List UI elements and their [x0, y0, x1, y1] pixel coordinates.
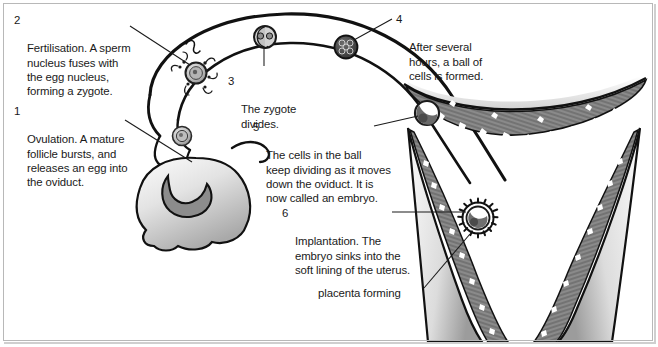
released-egg: [173, 127, 192, 146]
callout-4-number: 4: [396, 12, 407, 26]
callout-6-text: Implantation. The embryo sinks into the …: [295, 234, 450, 277]
callout-2-text: Fertilisation. A sperm nucleus fuses wit…: [27, 41, 166, 98]
label-placenta-forming: placenta forming: [318, 286, 401, 300]
callout-3-number: 3: [228, 74, 239, 88]
implanted-embryo: [458, 199, 497, 238]
callout-5: 5 The cells in the ball keep dividing as…: [253, 120, 423, 219]
callout-5-text: The cells in the ball keep dividing as i…: [266, 148, 423, 205]
callout-4-text: After several hours, a ball of cells is …: [409, 40, 508, 83]
callout-1-number: 1: [14, 104, 25, 118]
callout-2-number: 2: [14, 13, 25, 27]
callout-1-text: Ovulation. A mature follicle bursts, and…: [27, 132, 166, 189]
callout-2: 2 Fertilisation. A sperm nucleus fuses w…: [14, 13, 166, 112]
callout-4: 4 After several hours, a ball of cells i…: [396, 12, 508, 97]
callout-6-number: 6: [282, 206, 293, 220]
two-cell-zygote: [254, 26, 276, 48]
callout-1: 1 Ovulation. A mature follicle bursts, a…: [14, 104, 166, 203]
figure-canvas: 2 Fertilisation. A sperm nucleus fuses w…: [0, 0, 658, 347]
morula: [335, 36, 358, 59]
callout-5-number: 5: [253, 120, 264, 134]
fertilised-egg-with-sperm: [171, 52, 217, 95]
callout-6: 6 Implantation. The embryo sinks into th…: [282, 206, 450, 291]
